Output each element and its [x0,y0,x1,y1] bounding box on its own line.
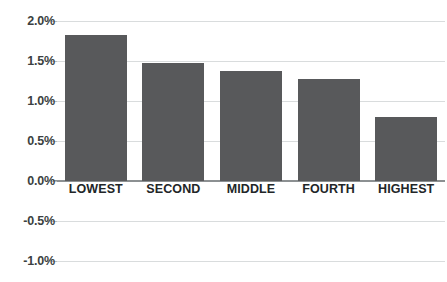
y-axis-tick-label: 1.5% [0,55,55,68]
bar-second[interactable] [142,63,204,181]
bar-fourth[interactable] [298,79,360,181]
bar-middle[interactable] [220,71,282,181]
y-axis-tick-label: 2.0% [0,15,55,28]
bar-highest[interactable] [375,117,437,181]
y-axis-tick-label: 0.5% [0,135,55,148]
y-axis-tick-label: 1.0% [0,95,55,108]
y-axis-tick-label: -0.5% [0,215,55,228]
x-axis-label-fourth: FOURTH [290,183,368,197]
x-axis-label-second: SECOND [135,183,213,197]
plot-area [57,0,445,282]
x-axis-label-highest: HIGHEST [367,183,445,197]
bar-lowest[interactable] [65,35,127,181]
x-axis-label-middle: MIDDLE [212,183,290,197]
y-axis-tick-label: -1.0% [0,255,55,268]
x-axis-label-lowest: LOWEST [57,183,135,197]
y-axis-tick-label: 0.0% [0,175,55,188]
bar-chart: 2.0%1.5%1.0%0.5%0.0%-0.5%-1.0% LOWESTSEC… [0,0,447,282]
